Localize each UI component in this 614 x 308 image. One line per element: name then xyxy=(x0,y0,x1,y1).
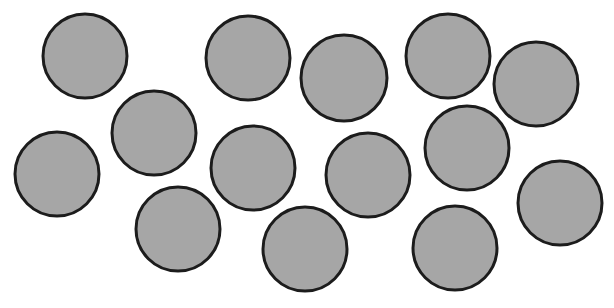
gray-circle xyxy=(263,207,347,291)
gray-circle xyxy=(413,206,497,290)
gray-circle xyxy=(494,42,578,126)
gray-circle xyxy=(425,106,509,190)
gray-circle xyxy=(15,132,99,216)
circle-field xyxy=(0,0,614,308)
circles-svg xyxy=(0,0,614,308)
gray-circle xyxy=(136,187,220,271)
gray-circle xyxy=(211,126,295,210)
gray-circle xyxy=(326,133,410,217)
gray-circle xyxy=(112,91,196,175)
gray-circle xyxy=(206,16,290,100)
gray-circle xyxy=(43,14,127,98)
gray-circle xyxy=(518,161,602,245)
gray-circle xyxy=(406,14,490,98)
gray-circle xyxy=(301,35,387,121)
